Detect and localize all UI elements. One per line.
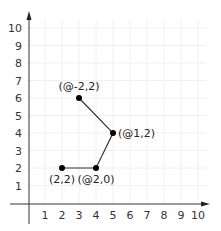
y-tick-label: 4 (15, 127, 22, 140)
y-tick-labels: 12345678910 (8, 22, 22, 193)
data-point (93, 165, 99, 171)
data-point (76, 95, 82, 101)
data-point (110, 130, 116, 136)
axes (10, 11, 210, 224)
data-point (59, 165, 65, 171)
x-tick-labels: 12345678910 (42, 209, 206, 222)
y-axis-arrow-icon (27, 11, 32, 20)
x-tick-label: 7 (144, 209, 151, 222)
y-tick-label: 1 (15, 180, 22, 193)
y-tick-label: 2 (15, 162, 22, 175)
coordinate-plot: 12345678910 12345678910 (2,2)(@2,0)(@1,2… (0, 0, 221, 231)
y-tick-label: 7 (15, 75, 22, 88)
x-tick-label: 9 (178, 209, 185, 222)
x-tick-label: 2 (59, 209, 66, 222)
x-tick-label: 6 (127, 209, 134, 222)
y-tick-label: 3 (15, 145, 22, 158)
x-tick-label: 4 (93, 209, 100, 222)
y-tick-label: 6 (15, 92, 22, 105)
y-tick-label: 9 (15, 40, 22, 53)
x-tick-label: 1 (42, 209, 49, 222)
y-tick-label: 5 (15, 110, 22, 123)
point-label: (@2,0) (77, 173, 114, 186)
x-tick-label: 8 (161, 209, 168, 222)
point-label: (@1,2) (118, 127, 155, 140)
x-tick-label: 3 (76, 209, 83, 222)
point-label: (@-2,2) (58, 80, 99, 93)
point-label: (2,2) (49, 173, 75, 186)
x-tick-label: 5 (110, 209, 117, 222)
y-tick-label: 10 (8, 22, 22, 35)
y-tick-label: 8 (15, 57, 22, 70)
x-tick-label: 10 (191, 209, 205, 222)
x-axis-arrow-icon (201, 202, 210, 207)
